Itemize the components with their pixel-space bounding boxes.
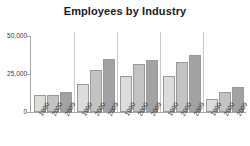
x-tick-label: 1990 — [205, 113, 218, 146]
x-tick-label: 2000 — [46, 113, 59, 146]
x-tick-label: 2009 — [59, 113, 72, 146]
x-tick-label: 1990 — [162, 113, 175, 146]
x-label-group: 199020002009 — [160, 113, 203, 146]
bar-groups — [31, 36, 246, 112]
x-tick-label: 2000 — [218, 113, 231, 146]
x-tick-label: 2000 — [89, 113, 102, 146]
x-tick-label: 2009 — [231, 113, 244, 146]
bar-group — [31, 36, 74, 112]
x-axis-labels: 1990200020091990200020091990200020091990… — [31, 113, 246, 146]
bar-group — [117, 36, 160, 112]
x-tick-label: 2009 — [145, 113, 158, 146]
x-label-group: 199020002009 — [31, 113, 74, 146]
bar-group — [160, 36, 203, 112]
bar-group — [74, 36, 117, 112]
bar-group — [203, 36, 246, 112]
y-tick-50000 — [27, 36, 30, 37]
x-tick-label: 1990 — [33, 113, 46, 146]
x-tick-label: 2009 — [102, 113, 115, 146]
chart-title: Employees by Industry — [0, 5, 250, 17]
y-tick-0 — [27, 112, 30, 113]
x-tick-label: 2000 — [132, 113, 145, 146]
x-tick-label: 2000 — [175, 113, 188, 146]
x-label-group: 199020002009 — [203, 113, 246, 146]
y-tick-label-2: 50,000 — [7, 33, 27, 40]
chart-container: Employees by Industry 50,000 25,000 0 19… — [0, 0, 250, 146]
x-label-group: 199020002009 — [74, 113, 117, 146]
x-tick-label: 1990 — [119, 113, 132, 146]
x-tick-label: 2009 — [188, 113, 201, 146]
y-tick-25000 — [27, 74, 30, 75]
y-tick-label-1: 25,000 — [7, 71, 27, 78]
x-tick-label: 1990 — [76, 113, 89, 146]
x-label-group: 199020002009 — [117, 113, 160, 146]
y-axis-labels: 50,000 25,000 0 — [0, 36, 27, 112]
